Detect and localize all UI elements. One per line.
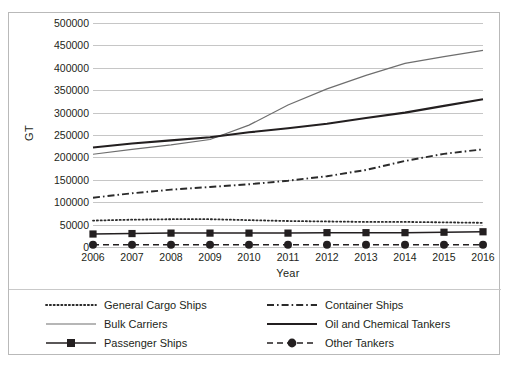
series-passenger-ships xyxy=(89,228,486,237)
y-axis-tick-label: 250000 xyxy=(31,130,89,140)
series-oil-and-chemical-tankers xyxy=(93,99,483,147)
x-axis-tick-label: 2011 xyxy=(277,251,300,264)
data-point-marker xyxy=(89,230,96,237)
data-point-marker xyxy=(362,229,369,236)
data-point-marker xyxy=(479,228,486,235)
y-axis-tick-label: 350000 xyxy=(31,85,89,95)
x-axis-tick-label: 2016 xyxy=(471,251,494,264)
legend-swatch-glyph xyxy=(45,337,97,349)
data-point-marker xyxy=(167,241,175,249)
y-axis-tick-label: 100000 xyxy=(31,197,89,207)
legend-swatch xyxy=(45,337,97,349)
data-point-marker xyxy=(284,230,291,237)
legend-item-passenger-ships[interactable]: Passenger Ships xyxy=(45,333,266,352)
y-axis-tick-label: 200000 xyxy=(31,152,89,162)
series-line xyxy=(93,219,483,223)
x-axis-tick-label: 2006 xyxy=(81,251,104,264)
data-point-marker xyxy=(440,229,447,236)
legend-label: General Cargo Ships xyxy=(104,299,207,311)
x-axis-tick-label: 2009 xyxy=(198,251,221,264)
y-axis-tick-label: 150000 xyxy=(31,175,89,185)
y-axis-tick-label: 450000 xyxy=(31,40,89,50)
data-point-marker xyxy=(245,230,252,237)
y-axis-tick-label: 500000 xyxy=(31,18,89,28)
series-bulk-carriers xyxy=(93,50,483,154)
data-point-marker xyxy=(323,241,331,249)
legend-swatch-glyph xyxy=(45,299,97,311)
series-layer xyxy=(93,23,483,247)
x-axis-title: Year xyxy=(93,267,483,279)
x-axis-tick-label: 2008 xyxy=(159,251,182,264)
data-point-marker xyxy=(479,241,487,249)
legend-swatch xyxy=(45,318,97,330)
legend-swatch xyxy=(266,318,318,330)
series-line xyxy=(93,50,483,154)
legend-swatch xyxy=(266,337,318,349)
y-axis-tick-label: 400000 xyxy=(31,63,89,73)
legend-label: Oil and Chemical Tankers xyxy=(325,318,450,330)
plot-canvas xyxy=(93,23,483,247)
x-axis-tick-label: 2013 xyxy=(354,251,377,264)
data-point-marker xyxy=(362,241,370,249)
data-point-marker xyxy=(206,230,213,237)
legend-item-general-cargo-ships[interactable]: General Cargo Ships xyxy=(45,295,266,314)
data-point-marker xyxy=(128,230,135,237)
data-point-marker xyxy=(284,241,292,249)
legend-item-bulk-carriers[interactable]: Bulk Carriers xyxy=(45,314,266,333)
chart-figure: GT 5000004500004000003500003000002500002… xyxy=(8,12,500,355)
y-axis-tick-label: 300000 xyxy=(31,108,89,118)
legend-swatch-glyph xyxy=(266,337,318,349)
legend-swatch-glyph xyxy=(266,299,318,311)
legend-item-container-ships[interactable]: Container Ships xyxy=(266,295,487,314)
legend-swatch-glyph xyxy=(45,318,97,330)
chart-legend: General Cargo ShipsContainer ShipsBulk C… xyxy=(9,289,501,355)
x-axis-tick-label: 2015 xyxy=(432,251,455,264)
x-axis-tick-labels: 2006200720082009201020112012201320142015… xyxy=(93,251,483,267)
legend-label: Container Ships xyxy=(325,299,403,311)
data-point-marker xyxy=(401,241,409,249)
data-point-marker xyxy=(401,229,408,236)
x-axis-tick-label: 2010 xyxy=(237,251,260,264)
data-point-marker xyxy=(167,230,174,237)
y-axis-tick-label: 50000 xyxy=(31,220,89,230)
legend-label: Other Tankers xyxy=(325,337,394,349)
data-point-marker xyxy=(128,241,136,249)
y-axis-tick-label: 0 xyxy=(31,242,89,252)
data-point-marker xyxy=(323,229,330,236)
y-axis-tick-labels: 5000004500004000003500003000002500002000… xyxy=(31,23,89,247)
legend-swatch xyxy=(45,299,97,311)
legend-label: Passenger Ships xyxy=(104,337,187,349)
legend-label: Bulk Carriers xyxy=(104,318,168,330)
data-point-marker xyxy=(89,241,97,249)
x-axis-tick-label: 2007 xyxy=(120,251,143,264)
data-point-marker xyxy=(206,241,214,249)
legend-item-oil-and-chemical-tankers[interactable]: Oil and Chemical Tankers xyxy=(266,314,487,333)
series-container-ships xyxy=(93,149,483,197)
legend-swatch xyxy=(266,299,318,311)
legend-swatch-glyph xyxy=(266,318,318,330)
data-point-marker xyxy=(440,241,448,249)
series-general-cargo-ships xyxy=(93,219,483,223)
legend-grid: General Cargo ShipsContainer ShipsBulk C… xyxy=(9,295,501,352)
series-line xyxy=(93,149,483,197)
x-axis-tick-label: 2012 xyxy=(315,251,338,264)
series-line xyxy=(93,99,483,147)
plot-area-wrapper: GT 5000004500004000003500003000002500002… xyxy=(9,13,501,261)
legend-item-other-tankers[interactable]: Other Tankers xyxy=(266,333,487,352)
data-point-marker xyxy=(245,241,253,249)
x-axis-tick-label: 2014 xyxy=(393,251,416,264)
